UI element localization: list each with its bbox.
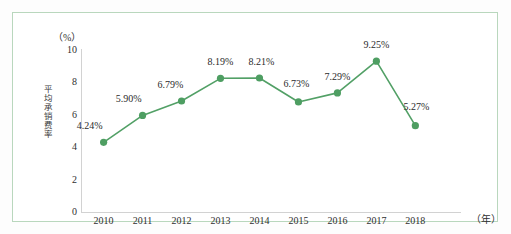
data-point-label: 9.25% [363,39,389,50]
y-tick-label: 0 [47,206,77,217]
data-point-marker [334,89,341,96]
x-tick-label: 2012 [172,215,192,226]
x-tick-label: 2015 [288,215,308,226]
data-point-label: 8.21% [249,55,275,66]
y-tick-label: 4 [47,141,77,152]
x-tick-label: 2013 [211,215,231,226]
y-axis-ticks: 0246810 [47,13,77,234]
x-tick-label: 2017 [366,215,386,226]
y-tick-label: 10 [47,44,77,55]
series-markers [100,58,419,146]
chart-figure: （%） （年） 平均承销费率 0246810 20102011201220132… [12,12,498,222]
data-point-label: 7.29% [324,70,350,81]
data-point-marker [295,98,302,105]
data-point-label: 4.24% [77,120,103,131]
y-tick-label: 8 [47,76,77,87]
data-point-label: 5.90% [116,93,142,104]
plot-area [81,49,459,211]
line-series-svg [81,49,459,211]
y-tick-label: 2 [47,173,77,184]
data-point-marker [373,58,380,65]
x-tick-label: 2011 [133,215,153,226]
x-axis-line [81,212,461,213]
data-point-marker [100,139,107,146]
y-tick-label: 6 [47,108,77,119]
data-point-label: 5.27% [403,100,429,111]
x-tick-label: 2016 [327,215,347,226]
data-point-marker [139,112,146,119]
data-point-marker [178,97,185,104]
x-tick-label: 2018 [405,215,425,226]
x-tick-label: 2014 [249,215,269,226]
data-point-label: 6.73% [284,77,310,88]
data-point-label: 6.79% [158,79,184,90]
data-point-marker [217,75,224,82]
series-line [104,61,416,142]
data-point-label: 8.19% [208,56,234,67]
x-axis-unit-label: （年） [471,211,501,226]
data-point-marker [256,74,263,81]
x-tick-label: 2010 [94,215,114,226]
data-point-marker [412,122,419,129]
